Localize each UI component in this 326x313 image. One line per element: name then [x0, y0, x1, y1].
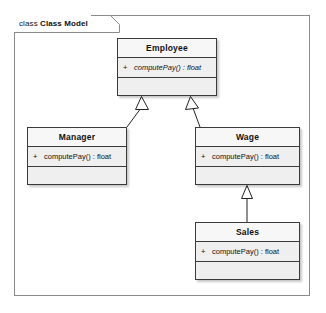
class-name-sales: Sales: [196, 223, 299, 242]
operation-signature: computePay() : float: [44, 147, 111, 166]
frame-name: Class Model: [40, 19, 88, 28]
operation-row-wage: + computePay() : float: [196, 147, 299, 167]
operation-row-manager: + computePay() : float: [28, 147, 126, 167]
class-name-wage: Wage: [196, 128, 299, 147]
class-box-manager[interactable]: Manager + computePay() : float: [27, 127, 127, 185]
visibility-marker: +: [201, 242, 212, 261]
operation-signature: computePay() : float: [134, 58, 201, 77]
frame-label: class Class Model: [14, 15, 91, 32]
frame-keyword: class: [19, 19, 38, 28]
diagram-canvas: class Class Model Employee + computePay(…: [0, 0, 326, 313]
visibility-marker: +: [123, 58, 134, 77]
class-box-wage[interactable]: Wage + computePay() : float: [195, 127, 300, 185]
operation-row-sales: + computePay() : float: [196, 242, 299, 262]
frame-label-text: class Class Model: [19, 20, 88, 28]
visibility-marker: +: [33, 147, 44, 166]
class-box-employee[interactable]: Employee + computePay() : float: [117, 38, 217, 96]
class-box-sales[interactable]: Sales + computePay() : float: [195, 222, 300, 280]
visibility-marker: +: [201, 147, 212, 166]
operation-row-employee: + computePay() : float: [118, 58, 216, 78]
class-name-employee: Employee: [118, 39, 216, 58]
operation-signature: computePay() : float: [212, 242, 279, 261]
class-name-manager: Manager: [28, 128, 126, 147]
operation-signature: computePay() : float: [212, 147, 279, 166]
